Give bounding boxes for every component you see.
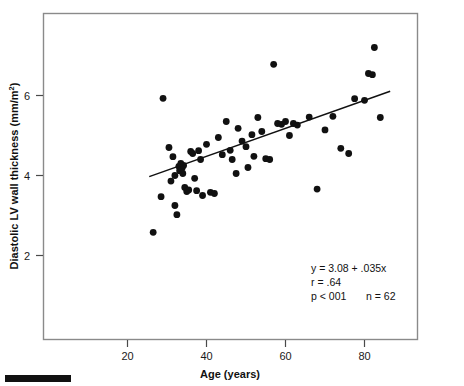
- correlation-label: r = .64: [311, 276, 341, 288]
- data-point: [249, 131, 256, 138]
- data-point: [270, 61, 277, 68]
- data-point: [173, 211, 180, 218]
- y-axis-title: Diastolic LV wall thickness (mm/m2): [7, 82, 20, 269]
- figure-page: 6 4 2 20 40 60 80 Age (years) Diastolic …: [0, 0, 464, 386]
- x-tick-label-40: 40: [200, 350, 212, 362]
- x-tick-label-80: 80: [358, 350, 370, 362]
- data-point: [351, 95, 358, 102]
- data-point: [243, 143, 250, 150]
- data-point: [211, 190, 218, 197]
- data-point: [245, 164, 252, 171]
- svg-text:Diastolic LV wall thickness (m: Diastolic LV wall thickness (mm/m2): [7, 82, 20, 269]
- data-point: [233, 170, 240, 177]
- data-point: [377, 114, 384, 121]
- pvalue-label: p < 001: [311, 290, 346, 302]
- data-point: [369, 71, 376, 78]
- data-point: [314, 186, 321, 193]
- scale-bar: [5, 375, 71, 382]
- sample-size-label: n = 62: [366, 290, 396, 302]
- data-point: [223, 118, 230, 125]
- data-point: [322, 126, 329, 133]
- data-point: [229, 156, 236, 163]
- data-point: [215, 134, 222, 141]
- scatter-plot-figure: 6 4 2 20 40 60 80 Age (years) Diastolic …: [0, 0, 464, 386]
- x-tick-label-20: 20: [121, 350, 133, 362]
- data-point: [150, 229, 157, 236]
- data-point: [185, 187, 192, 194]
- data-point: [191, 175, 198, 182]
- data-point: [189, 150, 196, 157]
- data-point: [166, 144, 173, 151]
- y-axis-ticks: 6 4 2: [24, 90, 43, 262]
- data-point: [258, 128, 265, 135]
- y-tick-label-4: 4: [24, 170, 30, 182]
- data-point: [193, 187, 200, 194]
- y-tick-label-2: 2: [24, 250, 30, 262]
- data-point: [345, 150, 352, 157]
- data-point: [235, 125, 242, 132]
- data-point: [172, 202, 179, 209]
- y-axis-title-tail: ): [8, 82, 20, 86]
- x-axis-ticks: 20 40 60 80: [121, 340, 370, 362]
- x-axis-title: Age (years): [200, 368, 260, 380]
- data-point: [195, 147, 202, 154]
- regression-equation-label: y = 3.08 + .035x: [311, 262, 387, 274]
- data-point: [199, 192, 206, 199]
- data-point: [170, 153, 177, 160]
- data-point: [282, 118, 289, 125]
- data-point: [251, 153, 258, 160]
- x-tick-label-60: 60: [279, 350, 291, 362]
- y-axis-title-main: Diastolic LV wall thickness (mm/m: [8, 90, 20, 269]
- data-point: [371, 44, 378, 51]
- data-point: [286, 132, 293, 139]
- data-point: [179, 170, 186, 177]
- data-point: [254, 114, 261, 121]
- data-point: [266, 156, 273, 163]
- y-tick-label-6: 6: [24, 90, 30, 102]
- data-point: [337, 145, 344, 152]
- data-point: [158, 193, 165, 200]
- data-point: [330, 113, 337, 120]
- data-point: [168, 178, 175, 185]
- plot-frame: [44, 14, 418, 340]
- data-point: [160, 95, 167, 102]
- data-point: [203, 141, 210, 148]
